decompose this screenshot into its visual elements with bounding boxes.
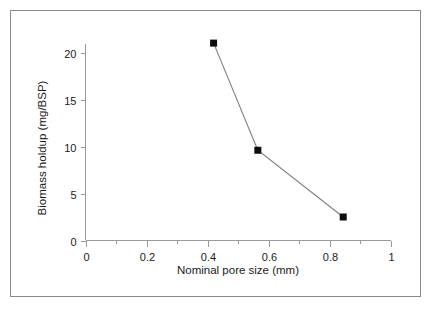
data-point-marker xyxy=(210,40,217,47)
y-axis-ticks xyxy=(81,54,86,242)
x-axis-tick-labels: 00.20.40.60.81 xyxy=(83,251,394,263)
data-point-marker xyxy=(254,147,261,154)
x-tick-label: 1 xyxy=(388,251,394,263)
y-tick-label: 5 xyxy=(70,189,76,201)
x-tick-label: 0.8 xyxy=(323,251,338,263)
series-markers-biomass-holdup xyxy=(210,40,347,221)
line-chart: 05101520 00.20.40.60.81 Nominal pore siz… xyxy=(0,0,433,320)
y-tick-label: 20 xyxy=(64,48,76,60)
x-axis-title: Nominal pore size (mm) xyxy=(177,264,299,276)
x-axis-minor-ticks xyxy=(117,241,361,245)
y-axis-title: Biomass holdup (mg/BSP) xyxy=(36,80,48,215)
x-tick-label: 0.4 xyxy=(201,251,216,263)
x-tick-label: 0 xyxy=(83,251,89,263)
y-tick-label: 0 xyxy=(70,236,76,248)
x-tick-label: 0.6 xyxy=(262,251,277,263)
y-tick-label: 10 xyxy=(64,142,76,154)
data-point-marker xyxy=(340,214,347,221)
series-line-biomass-holdup xyxy=(214,43,344,217)
x-tick-label: 0.2 xyxy=(140,251,155,263)
y-axis-tick-labels: 05101520 xyxy=(64,48,76,248)
figure-root: 05101520 00.20.40.60.81 Nominal pore siz… xyxy=(0,0,433,320)
y-tick-label: 15 xyxy=(64,95,76,107)
